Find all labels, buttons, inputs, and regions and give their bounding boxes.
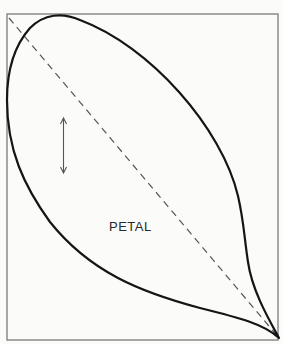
grain-double-arrow-icon [61,118,67,173]
pattern-svg [0,0,283,344]
petal-pattern-diagram: PETAL [0,0,283,344]
petal-label: PETAL [109,219,152,234]
